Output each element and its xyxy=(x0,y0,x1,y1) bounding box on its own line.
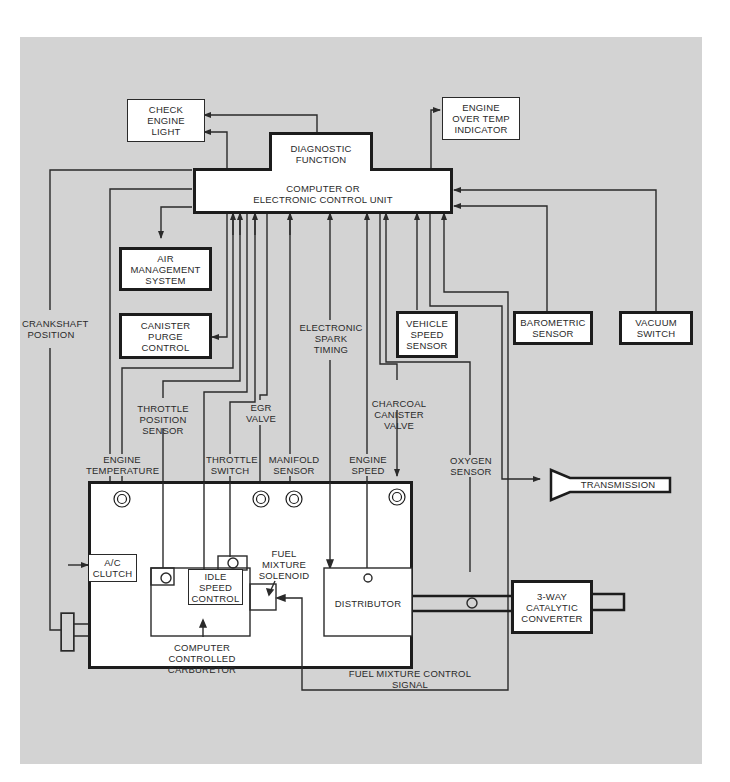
engine-temperature-label: ENGINE TEMPERATURE xyxy=(86,454,158,476)
ecu-label: COMPUTER OR ELECTRONIC CONTROL UNIT xyxy=(253,177,392,205)
check-engine-light-box: CHECK ENGINE LIGHT xyxy=(127,99,205,142)
vehicle-speed-sensor-box: VEHICLE SPEED SENSOR xyxy=(396,311,458,358)
check-engine-light-label: CHECK ENGINE LIGHT xyxy=(147,104,185,137)
engine-speed-label: ENGINE SPEED xyxy=(348,454,388,476)
crank-pulley xyxy=(61,613,74,651)
diagnostic-function-label: DIAGNOSTIC FUNCTION xyxy=(290,143,351,165)
engine-over-temp-box: ENGINE OVER TEMP INDICATOR xyxy=(442,97,520,140)
ac-clutch-label: A/C CLUTCH xyxy=(93,557,133,579)
catalytic-converter-label: 3-WAY CATALYTIC CONVERTER xyxy=(521,591,582,624)
throttle-switch-label: THROTTLE SWITCH xyxy=(206,454,254,476)
oxygen-sensor-label: OXYGEN SENSOR xyxy=(447,455,495,477)
engine-over-temp-label: ENGINE OVER TEMP INDICATOR xyxy=(452,102,510,135)
ecu-join-cover xyxy=(272,166,370,172)
vacuum-switch-label: VACUUM SWITCH xyxy=(635,317,677,339)
air-management-label: AIR MANAGEMENT SYSTEM xyxy=(130,253,200,286)
transmission-label: TRANSMISSION xyxy=(568,479,668,490)
catalytic-converter-box: 3-WAY CATALYTIC CONVERTER xyxy=(511,580,593,634)
electronic-spark-timing-label: ELECTRONIC SPARK TIMING xyxy=(298,322,364,355)
barometric-sensor-box: BAROMETRIC SENSOR xyxy=(513,311,593,345)
ac-clutch-box: A/C CLUTCH xyxy=(89,554,137,582)
barometric-sensor-label: BAROMETRIC SENSOR xyxy=(520,317,585,339)
air-management-box: AIR MANAGEMENT SYSTEM xyxy=(119,247,212,291)
charcoal-canister-valve-label: CHARCOAL CANISTER VALVE xyxy=(368,398,430,431)
idle-speed-control-box: IDLE SPEED CONTROL xyxy=(188,569,243,605)
throttle-position-sensor-label: THROTTLE POSITION SENSOR xyxy=(131,403,195,436)
manifold-sensor-label: MANIFOLD SENSOR xyxy=(266,454,322,476)
fuel-mixture-solenoid-label: FUEL MIXTURE SOLENOID xyxy=(256,548,312,581)
ecu-box: COMPUTER OR ELECTRONIC CONTROL UNIT xyxy=(193,168,453,214)
carburetor-label: COMPUTER CONTROLLED CARBURETOR xyxy=(140,642,264,675)
vacuum-switch-box: VACUUM SWITCH xyxy=(619,311,693,345)
egr-valve-label: EGR VALVE xyxy=(243,402,279,424)
vehicle-speed-sensor-label: VEHICLE SPEED SENSOR xyxy=(406,318,448,351)
canister-purge-box: CANISTER PURGE CONTROL xyxy=(119,313,212,359)
canister-purge-label: CANISTER PURGE CONTROL xyxy=(141,320,191,353)
distributor-label: DISTRIBUTOR xyxy=(324,598,412,609)
crankshaft-position-label: CRANKSHAFT POSITION xyxy=(22,318,80,340)
fuel-mixture-control-signal-label: FUEL MIXTURE CONTROL SIGNAL xyxy=(330,668,490,690)
idle-speed-control-label: IDLE SPEED CONTROL xyxy=(192,571,240,604)
